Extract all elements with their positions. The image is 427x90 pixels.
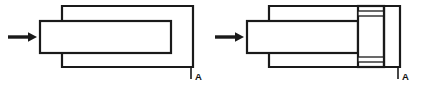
diagram-root: A (0, 0, 427, 90)
sliding-block (247, 21, 358, 53)
stage-1-panel: A (8, 6, 202, 82)
reference-label-a-text: A (195, 71, 202, 82)
stage-2-panel: A (215, 6, 409, 82)
sliding-block (40, 21, 171, 53)
mechanical-sequence-diagram: A (0, 0, 427, 90)
lower-band (358, 57, 384, 62)
motion-arrow-icon (8, 32, 37, 42)
upper-band (358, 11, 384, 16)
compressed-seal-pack (358, 6, 384, 67)
motion-arrow-icon (215, 32, 244, 42)
reference-label-a-text: A (402, 71, 409, 82)
reference-label-a: A (398, 67, 409, 82)
reference-label-a: A (191, 67, 202, 82)
